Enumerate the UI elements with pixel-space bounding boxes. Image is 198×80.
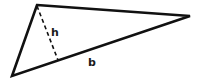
base-label: b xyxy=(88,56,96,69)
triangle-diagram: h b xyxy=(0,0,198,80)
triangle-outline xyxy=(12,5,190,76)
height-label: h xyxy=(51,26,59,39)
